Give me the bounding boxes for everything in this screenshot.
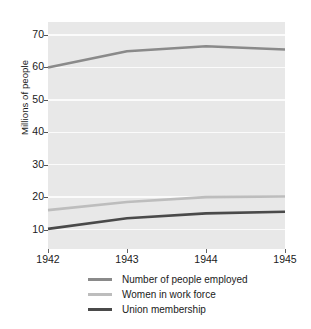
legend-item[interactable]: Women in work force — [88, 287, 308, 302]
legend-swatch — [88, 278, 112, 281]
y-tick-label: 40 — [4, 126, 44, 137]
line-chart: Millions of people 10203040506070 194219… — [0, 0, 311, 329]
x-tick-mark — [285, 249, 286, 253]
y-tick-label: 30 — [4, 159, 44, 170]
series-line — [48, 212, 285, 229]
y-tick-label: 20 — [4, 191, 44, 202]
legend-item[interactable]: Union membership — [88, 302, 308, 317]
series-line — [48, 46, 285, 67]
y-tick-label: 60 — [4, 61, 44, 72]
y-tick-label: 10 — [4, 224, 44, 235]
x-tick-label: 1943 — [104, 253, 150, 265]
y-tick-label: 70 — [4, 29, 44, 40]
data-series-layer — [48, 22, 285, 249]
legend-label: Number of people employed — [122, 274, 248, 285]
y-tick-label: 50 — [4, 94, 44, 105]
chart-legend: Number of people employedWomen in work f… — [88, 272, 308, 317]
series-line — [48, 196, 285, 210]
legend-swatch — [88, 308, 112, 312]
legend-label: Women in work force — [122, 289, 216, 300]
legend-swatch — [88, 293, 112, 296]
x-tick-mark — [127, 249, 128, 253]
x-tick-label: 1944 — [183, 253, 229, 265]
x-tick-label: 1942 — [25, 253, 71, 265]
x-tick-label: 1945 — [262, 253, 308, 265]
legend-label: Union membership — [122, 304, 206, 315]
x-tick-mark — [206, 249, 207, 253]
x-tick-mark — [48, 249, 49, 253]
legend-item[interactable]: Number of people employed — [88, 272, 308, 287]
